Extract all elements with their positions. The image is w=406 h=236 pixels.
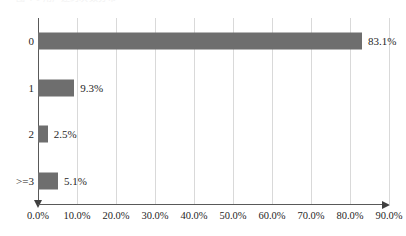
bar[interactable] bbox=[38, 33, 362, 50]
y-axis-tick-label: 1 bbox=[29, 82, 35, 94]
y-axis-tick-label: 2 bbox=[29, 128, 35, 140]
y-axis-tick-label: >=3 bbox=[16, 175, 34, 187]
bar[interactable] bbox=[38, 79, 74, 96]
x-axis-tick-label: 0.0% bbox=[27, 210, 49, 221]
x-axis-tick-label: 70.0% bbox=[297, 210, 324, 221]
x-axis-tick-label: 50.0% bbox=[219, 210, 246, 221]
plot-area: 83.1%9.3%2.5%5.1% bbox=[38, 18, 389, 204]
x-axis-tick-label: 80.0% bbox=[336, 210, 363, 221]
bar-value-label: 9.3% bbox=[80, 82, 103, 94]
x-axis-tick-label: 10.0% bbox=[63, 210, 90, 221]
bar-value-label: 2.5% bbox=[54, 128, 77, 140]
y-axis-tick-label: 0 bbox=[29, 35, 35, 47]
bar-row: 5.1% bbox=[38, 158, 389, 205]
bar-row: 83.1% bbox=[38, 18, 389, 65]
x-axis-tick-label: 60.0% bbox=[258, 210, 285, 221]
bar[interactable] bbox=[38, 172, 58, 189]
chart-title-fragment: 图 4-1 用户违约次数分布 bbox=[16, 0, 116, 4]
bar-row: 9.3% bbox=[38, 65, 389, 112]
x-axis-line bbox=[38, 204, 383, 205]
bar[interactable] bbox=[38, 126, 48, 143]
bar-value-label: 83.1% bbox=[368, 35, 396, 47]
x-axis-tick-label: 20.0% bbox=[102, 210, 129, 221]
x-axis-tick-label: 40.0% bbox=[180, 210, 207, 221]
bar-value-label: 5.1% bbox=[64, 175, 87, 187]
bar-chart: 图 4-1 用户违约次数分布 83.1%9.3%2.5%5.1% 012>=3 … bbox=[0, 0, 406, 236]
bar-row: 2.5% bbox=[38, 111, 389, 158]
x-axis-tick-label: 30.0% bbox=[141, 210, 168, 221]
x-axis-tick-label: 90.0% bbox=[375, 210, 402, 221]
